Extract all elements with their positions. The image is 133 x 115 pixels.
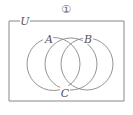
universe-label: U xyxy=(20,15,30,28)
set-a-label: A xyxy=(44,33,53,46)
set-a-circle xyxy=(27,38,80,91)
set-c-label: C xyxy=(61,87,70,100)
set-b-label: B xyxy=(83,33,92,46)
venn-diagram: ① U A B C xyxy=(0,0,133,115)
figure-number: ① xyxy=(61,3,71,16)
